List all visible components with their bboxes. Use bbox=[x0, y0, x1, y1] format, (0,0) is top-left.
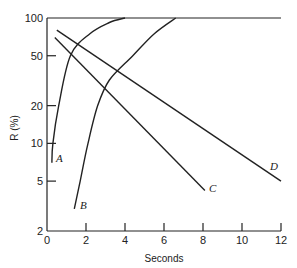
y-tick-label: 10 bbox=[31, 137, 43, 149]
curve-b bbox=[74, 18, 175, 209]
y-tick-label: 50 bbox=[31, 50, 43, 62]
x-axis-title: Seconds bbox=[145, 253, 184, 264]
curve-label-d: D bbox=[269, 160, 278, 172]
x-tick-label: 2 bbox=[83, 234, 89, 246]
x-tick-label: 12 bbox=[275, 234, 287, 246]
y-tick-label: 5 bbox=[37, 175, 43, 187]
curves bbox=[52, 18, 281, 209]
x-tick-label: 10 bbox=[236, 234, 248, 246]
curve-label-b: B bbox=[80, 199, 87, 211]
curve-label-c: C bbox=[209, 182, 217, 194]
x-tick-label: 0 bbox=[44, 234, 50, 246]
curve-label-a: A bbox=[55, 152, 63, 164]
y-tick-label: 100 bbox=[25, 12, 43, 24]
chart: 02468101225102050100 Seconds R (%) A B C… bbox=[0, 0, 297, 268]
curve-d bbox=[57, 30, 281, 181]
x-tick-label: 6 bbox=[161, 234, 167, 246]
x-tick-label: 4 bbox=[122, 234, 128, 246]
y-tick-label: 2 bbox=[37, 225, 43, 237]
x-tick-label: 8 bbox=[200, 234, 206, 246]
y-axis-title: R (%) bbox=[9, 115, 20, 141]
y-tick-label: 20 bbox=[31, 100, 43, 112]
